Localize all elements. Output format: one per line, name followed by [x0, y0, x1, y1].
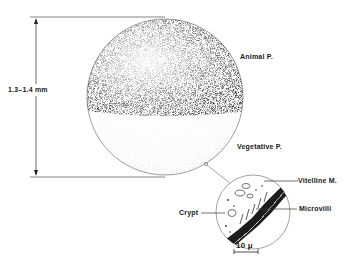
animal-pole-label: Animal P. — [240, 53, 273, 60]
crypt-label: Crypt — [179, 209, 198, 216]
egg-sphere — [87, 19, 243, 179]
scale-bar-label: 10 μ — [236, 241, 253, 250]
microvilli-label: Microvilli — [299, 205, 331, 212]
vegetative-pole-label: Vegetative P. — [237, 143, 282, 150]
vitelline-membrane-label: Vitelline M. — [298, 177, 337, 184]
surface-inset — [216, 175, 296, 250]
inset-leader — [204, 162, 231, 184]
diameter-label: 1.3–1.4 mm — [8, 86, 48, 93]
egg-diagram — [0, 0, 355, 271]
animal-pole-region — [87, 19, 243, 119]
